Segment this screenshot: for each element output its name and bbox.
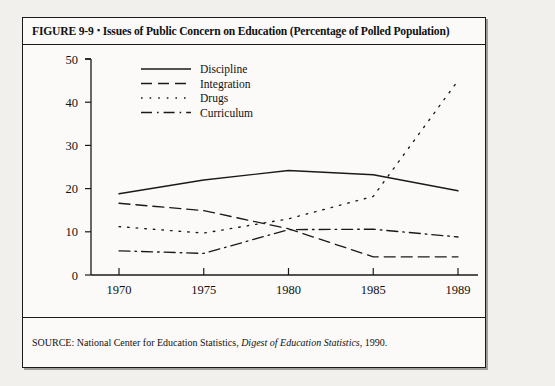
chart-axes — [85, 59, 478, 275]
source-publication-title: Digest of Education Statistics — [241, 337, 360, 348]
x-tick-label: 1975 — [191, 283, 216, 297]
figure-title: FIGURE 9-9▪Issues of Public Concern on E… — [32, 25, 449, 38]
title-separator-icon: ▪ — [94, 25, 103, 35]
series-line-curriculum — [119, 229, 458, 253]
y-tick-label: 20 — [66, 182, 79, 196]
source-prefix: SOURCE: National Center for Education St… — [32, 337, 241, 348]
figure-title-text: Issues of Public Concern on Education (P… — [103, 25, 450, 38]
source-bar: SOURCE: National Center for Education St… — [23, 317, 485, 367]
figure-title-bar: FIGURE 9-9▪Issues of Public Concern on E… — [23, 18, 485, 45]
legend-label-curriculum: Curriculum — [200, 107, 253, 119]
chart-legend: DisciplineIntegrationDrugsCurriculum — [141, 63, 253, 118]
plot-area: 01020304050 19701975198019851989 Discipl… — [23, 45, 485, 317]
source-note: SOURCE: National Center for Education St… — [32, 337, 387, 348]
series-line-discipline — [119, 170, 458, 193]
y-axis-ticks: 01020304050 — [66, 53, 92, 283]
source-suffix: , 1990. — [360, 337, 388, 348]
y-axis — [85, 59, 91, 275]
legend-label-drugs: Drugs — [200, 92, 229, 105]
legend-label-integration: Integration — [200, 78, 251, 91]
figure-number: FIGURE 9-9 — [32, 25, 94, 38]
x-tick-label: 1989 — [446, 283, 471, 297]
chart-series-group — [119, 81, 458, 257]
figure-frame: FIGURE 9-9▪Issues of Public Concern on E… — [22, 17, 486, 368]
y-tick-label: 0 — [72, 269, 78, 283]
x-tick-label: 1970 — [107, 283, 132, 297]
series-line-integration — [119, 203, 458, 257]
x-tick-label: 1985 — [361, 283, 386, 297]
line-chart: 01020304050 19701975198019851989 Discipl… — [23, 45, 484, 317]
y-tick-label: 10 — [66, 225, 79, 239]
y-tick-label: 40 — [66, 96, 79, 110]
x-tick-label: 1980 — [276, 283, 301, 297]
x-axis-ticks: 19701975198019851989 — [107, 268, 471, 297]
y-tick-label: 30 — [66, 139, 79, 153]
y-tick-label: 50 — [66, 53, 79, 67]
series-line-drugs — [119, 81, 458, 234]
legend-label-discipline: Discipline — [200, 63, 247, 76]
